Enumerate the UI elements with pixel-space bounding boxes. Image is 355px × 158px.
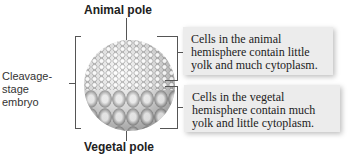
embryo-label: Cleavage- stage embryo — [2, 70, 52, 109]
animal-bracket-top — [157, 36, 177, 37]
animal-hemisphere-cells — [84, 40, 175, 90]
vegetal-bracket-tick — [177, 107, 183, 108]
animal-pole-label: Animal pole — [84, 3, 152, 17]
embryo-bracket-bottom — [75, 128, 81, 129]
embryo-illustration — [84, 40, 175, 131]
embryo-label-line3: embryo — [2, 96, 52, 109]
embryo-bracket-top — [75, 36, 81, 37]
vegetal-pole-label: Vegetal pole — [84, 140, 154, 154]
animal-hemisphere-callout: Cells in the animal hemisphere contain l… — [183, 27, 333, 75]
vegetal-bracket-bottom — [160, 128, 177, 129]
vegetal-hemisphere-callout: Cells in the vegetal hemisphere contain … — [184, 85, 340, 132]
animal-pole-leader — [126, 18, 127, 40]
animal-bracket — [177, 36, 178, 81]
embryo-bracket — [75, 36, 76, 129]
animal-bracket-bottom — [165, 80, 177, 81]
vegetal-hemisphere-cells — [84, 90, 175, 131]
embryo-bracket-tick — [69, 83, 75, 84]
vegetal-bracket-top — [165, 86, 177, 87]
embryo-label-line1: Cleavage- — [2, 70, 52, 83]
embryo-label-line2: stage — [2, 83, 52, 96]
